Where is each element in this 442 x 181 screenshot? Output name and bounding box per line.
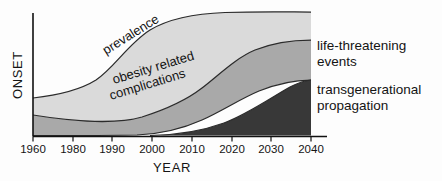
x-tick-label-1980: 1980 <box>60 143 86 155</box>
label-life-threatening-line2: events <box>317 54 357 69</box>
y-axis-title: ONSET <box>10 51 25 99</box>
area-chart: 1960 1980 1990 2000 2010 2020 2030 2040 … <box>0 0 442 181</box>
x-tick-label-2010: 2010 <box>179 143 205 155</box>
label-transgenerational-line1: transgenerational <box>317 82 421 97</box>
x-tick-label-2030: 2030 <box>258 143 284 155</box>
x-axis-title: YEAR <box>153 160 191 175</box>
x-tick-label-1960: 1960 <box>20 143 46 155</box>
x-tick-label-2020: 2020 <box>219 143 245 155</box>
x-tick-label-2000: 2000 <box>139 143 165 155</box>
x-tick-label-1990: 1990 <box>99 143 125 155</box>
x-axis-tick-labels: 1960 1980 1990 2000 2010 2020 2030 2040 <box>20 143 324 155</box>
label-transgenerational-line2: propagation <box>317 98 388 113</box>
figure-container: 1960 1980 1990 2000 2010 2020 2030 2040 … <box>0 0 442 181</box>
label-life-threatening-line1: life-threatening <box>317 38 406 53</box>
x-tick-label-2040: 2040 <box>298 143 324 155</box>
